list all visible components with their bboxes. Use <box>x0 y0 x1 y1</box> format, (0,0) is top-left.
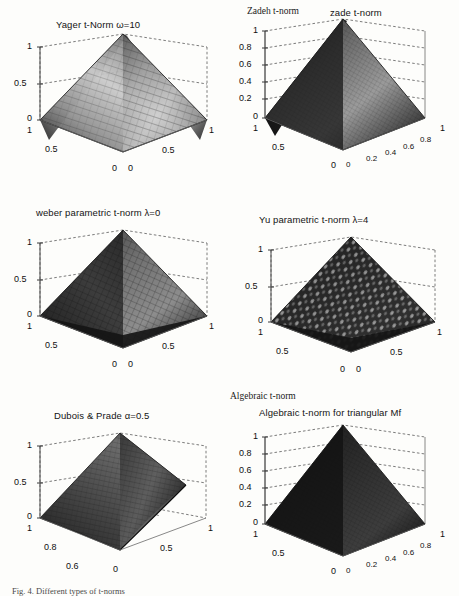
figure-page: Yager t-Norm ω=10 <box>0 0 459 596</box>
ltick-alg-0: 1 <box>253 529 258 539</box>
rtick-yager-0: 0 <box>128 163 133 173</box>
ltick-dp-2: 0.6 <box>66 561 79 571</box>
ltick-weber-0: 1 <box>27 321 32 331</box>
axes-zadeh <box>229 0 459 195</box>
plot-yager: Yager t-Norm ω=10 <box>0 0 229 195</box>
ytick-yager-0: 1 <box>27 41 32 51</box>
rtick-yu-0: 0 <box>356 364 361 374</box>
rtick-alg-5: 1 <box>440 529 445 539</box>
ztick-dp-1: 0.5 <box>14 477 27 487</box>
ltick-yu-1: 0.5 <box>276 346 289 356</box>
rtick-zadeh-3: 0.6 <box>403 142 414 151</box>
ltick-zadeh-2: 0 <box>331 160 336 170</box>
ltick-yager-0: 1 <box>27 125 32 135</box>
ztick-alg-5: 0 <box>253 517 258 527</box>
plot-weber: weber parametric t-norm λ=0 <box>0 196 229 391</box>
ltick-alg-1: 0.5 <box>272 548 285 558</box>
rtick-weber-2: 1 <box>209 321 214 331</box>
rtick-alg-4: 0.8 <box>420 541 431 550</box>
ztick-zadeh-2: 0.6 <box>239 59 252 69</box>
ztick-alg-2: 0.6 <box>239 465 252 475</box>
rtick-weber-0: 0 <box>128 359 133 369</box>
ztick-zadeh-4: 0.2 <box>239 93 252 103</box>
ltick-yager-1: 0.5 <box>45 144 58 154</box>
rtick-zadeh-4: 0.8 <box>420 135 431 144</box>
ztick-weber-2: 0 <box>27 309 32 319</box>
rtick-alg-1: 0.2 <box>366 560 377 569</box>
ztick-dp-2: 0 <box>27 511 32 521</box>
rtick-zadeh-1: 0.2 <box>366 154 377 163</box>
ltick-weber-2: 0 <box>112 359 117 369</box>
rtick-alg-3: 0.6 <box>403 548 414 557</box>
rtick-dp-2: 1 <box>208 523 213 533</box>
rtick-zadeh-2: 0.4 <box>385 148 396 157</box>
ltick-yu-0: 1 <box>258 327 263 337</box>
ltick-dp-0: 1 <box>27 523 32 533</box>
ltick-yager-2: 0 <box>112 163 117 173</box>
ztick-alg-1: 0.8 <box>239 448 252 458</box>
ztick-alg-4: 0.2 <box>239 499 252 509</box>
ztick-weber-0: 1 <box>27 237 32 247</box>
axes-algebraic <box>229 392 459 596</box>
rtick-yager-1: 0.5 <box>162 145 175 155</box>
ztick-yu-1: 0.5 <box>245 281 258 291</box>
ztick-zadeh-1: 0.8 <box>239 42 252 52</box>
ltick-dp-1: 0.8 <box>44 542 57 552</box>
ztick-zadeh-3: 0.4 <box>239 76 252 86</box>
ltick-alg-2: 0 <box>331 566 336 576</box>
figure-caption: Fig. 4. Different types of t-norms <box>12 586 125 596</box>
rtick-dp-0: 0 <box>113 564 118 574</box>
ztick-yu-2: 0 <box>258 315 263 325</box>
rtick-yager-2: 1 <box>209 125 214 135</box>
ytick-yager-2: 0 <box>27 113 32 123</box>
rtick-alg-0: 0 <box>346 566 350 575</box>
plot-yu: Yu parametric t-norm λ=4 <box>229 196 459 391</box>
ztick-yu-0: 1 <box>258 244 263 254</box>
ltick-zadeh-1: 0.5 <box>272 142 285 152</box>
rtick-zadeh-5: 1 <box>440 123 445 133</box>
rtick-zadeh-0: 0 <box>346 160 350 169</box>
ltick-zadeh-0: 1 <box>253 123 258 133</box>
ztick-alg-0: 1 <box>253 431 258 441</box>
ltick-weber-1: 0.5 <box>45 340 58 350</box>
ztick-zadeh-5: 0 <box>253 111 258 121</box>
plot-algebraic: Algebraic t-norm Algebraic t-norm for tr… <box>229 392 459 596</box>
ztick-dp-0: 1 <box>27 440 32 450</box>
ytick-yager-1: 0.5 <box>14 78 27 88</box>
rtick-weber-1: 0.5 <box>162 341 175 351</box>
rtick-dp-1: 0.5 <box>160 543 173 553</box>
plot-dubois-prade: Dubois & Prade α=0.5 <box>0 392 229 596</box>
rtick-alg-2: 0.4 <box>385 554 396 563</box>
plot-zadeh: Zadeh t-norm zade t-norm <box>229 0 459 195</box>
ltick-yu-2: 0 <box>340 364 345 374</box>
ztick-zadeh-0: 1 <box>253 25 258 35</box>
ztick-weber-1: 0.5 <box>14 274 27 284</box>
rtick-yu-2: 1 <box>437 327 442 337</box>
axes-yu <box>229 196 459 391</box>
rtick-yu-1: 0.5 <box>390 347 403 357</box>
ztick-alg-3: 0.4 <box>239 482 252 492</box>
